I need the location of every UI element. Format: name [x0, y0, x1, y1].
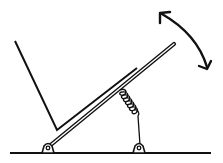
mechanism-diagram: [0, 0, 223, 163]
